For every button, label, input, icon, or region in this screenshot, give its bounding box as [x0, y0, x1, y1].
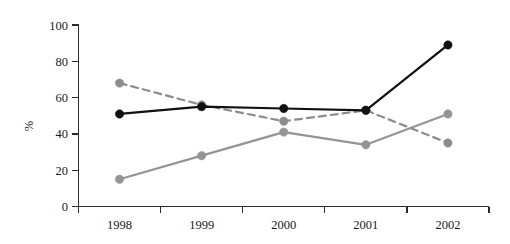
data-point-marker — [280, 128, 288, 136]
data-point-marker — [362, 106, 370, 114]
y-tick-label: 0 — [62, 200, 68, 214]
series-black-solid — [115, 41, 452, 118]
data-point-marker — [197, 102, 205, 110]
y-axis-ticks — [72, 25, 79, 207]
y-tick-label: 20 — [56, 164, 69, 178]
x-tick-label: 1999 — [189, 218, 214, 232]
data-point-marker — [444, 139, 452, 147]
data-point-marker — [115, 110, 123, 118]
x-tick-label: 2002 — [435, 218, 460, 232]
y-tick-label: 60 — [56, 91, 69, 105]
data-point-marker — [115, 175, 123, 183]
y-axis-title: % — [22, 121, 36, 131]
x-axis-tick-labels: 19981999200020012002 — [107, 218, 460, 232]
data-point-marker — [362, 141, 370, 149]
line-chart: 020406080100 19981999200020012002 % — [0, 0, 510, 244]
chart-container: 020406080100 19981999200020012002 % — [0, 0, 510, 244]
series-gray-dashed — [115, 79, 452, 147]
data-point-marker — [115, 79, 123, 87]
y-tick-label: 80 — [56, 55, 69, 69]
series-layer — [115, 41, 452, 184]
x-tick-label: 2001 — [353, 218, 378, 232]
data-point-marker — [280, 104, 288, 112]
y-tick-label: 100 — [49, 19, 68, 33]
x-tick-label: 2000 — [271, 218, 296, 232]
x-axis-ticks — [79, 207, 490, 214]
data-point-marker — [444, 110, 452, 118]
data-point-marker — [197, 151, 205, 159]
y-tick-label: 40 — [56, 127, 69, 141]
y-axis-tick-labels: 020406080100 — [49, 19, 68, 215]
series-line-black-solid — [120, 45, 448, 114]
x-tick-label: 1998 — [107, 218, 132, 232]
data-point-marker — [444, 41, 452, 49]
data-point-marker — [280, 117, 288, 125]
